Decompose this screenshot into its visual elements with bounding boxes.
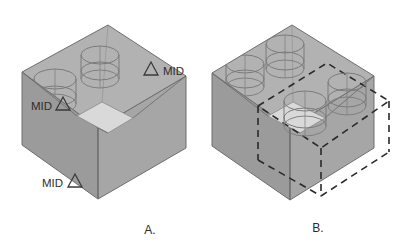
mid-marker-label: MID: [42, 177, 63, 189]
mid-marker-label: MID: [163, 65, 184, 77]
mid-marker-label: MID: [31, 100, 52, 112]
figure-a-caption: A.: [144, 223, 155, 237]
illustration-canvas: MID MID MID A.: [0, 0, 397, 251]
two-box-wireframe-diagram: MID MID MID A.: [0, 0, 397, 251]
figure-b-caption: B.: [312, 221, 323, 235]
